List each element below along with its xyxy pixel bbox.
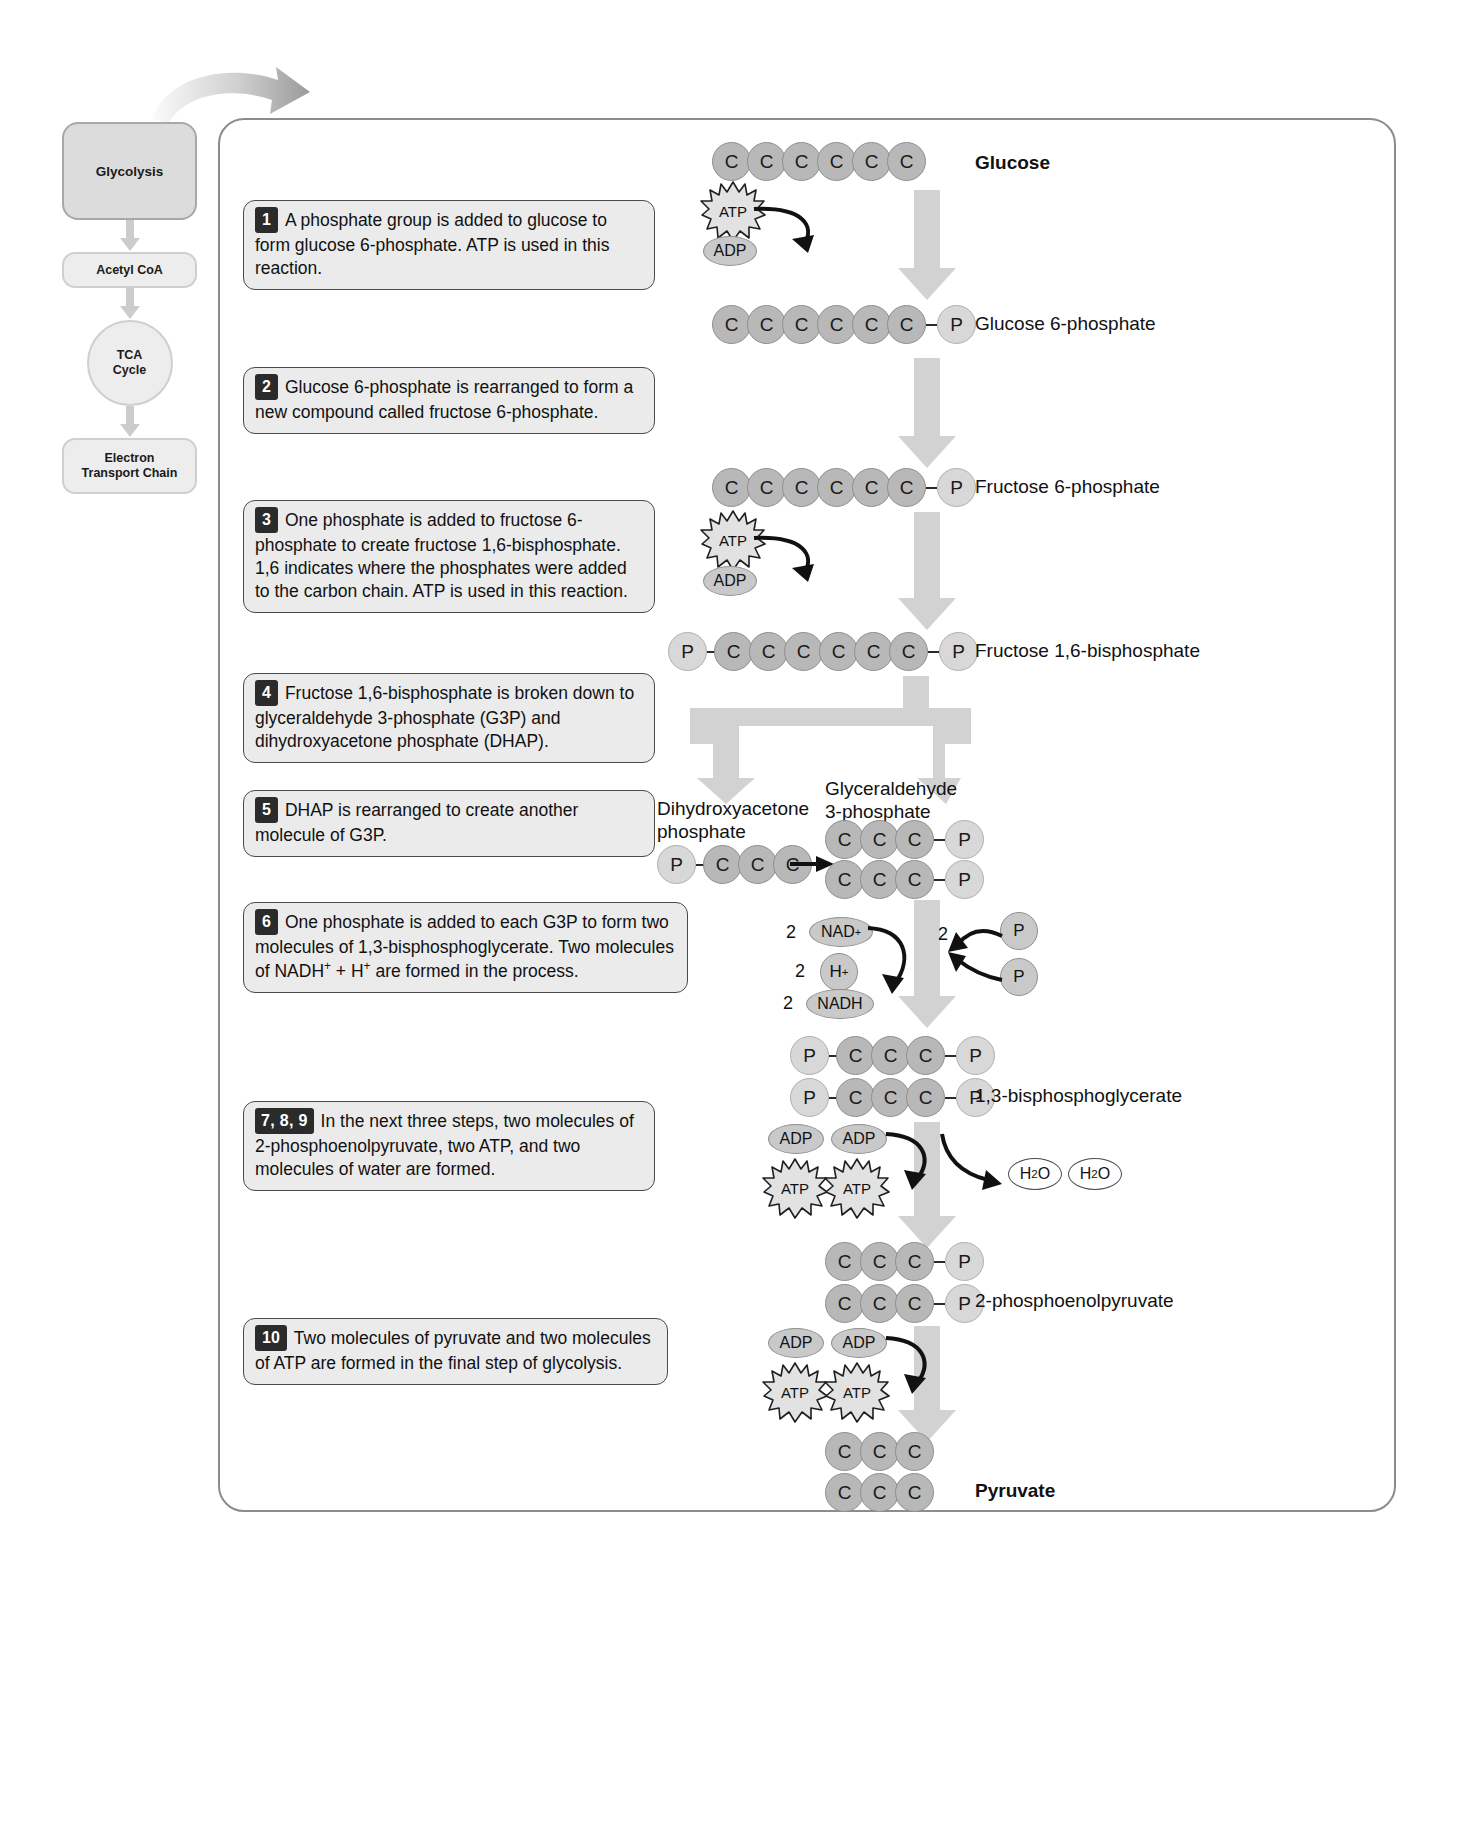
molecule-pyruvate: C C C — [825, 1432, 934, 1471]
svg-text:ATP: ATP — [843, 1180, 871, 1197]
molecule-pyruvate: C C C — [825, 1473, 934, 1512]
reaction-curve-arrow — [946, 950, 1008, 998]
carbon-circle: C — [860, 1284, 899, 1323]
water-ellipse: H2O — [1068, 1158, 1122, 1190]
molecule-label-glucose: Glucose — [975, 152, 1050, 174]
bond-line — [945, 1097, 956, 1099]
phosphate-circle: P — [956, 1036, 995, 1075]
sidebar-item-acetyl-coa[interactable]: Acetyl CoA — [62, 252, 197, 288]
carbon-circle: C — [825, 860, 864, 899]
reaction-curve-arrow — [884, 1330, 948, 1406]
molecule-label-pyruvate: Pyruvate — [975, 1480, 1055, 1502]
molecule-g3p: C C C P — [825, 860, 984, 899]
phosphate-circle: P — [945, 820, 984, 859]
phosphate-circle: P — [657, 845, 696, 884]
reaction-curve-arrow — [936, 1126, 1012, 1202]
carbon-circle: C — [749, 632, 788, 671]
step-number-badge: 6 — [255, 909, 278, 935]
molecule-1-3-bisphosphoglycerate: P C C C P — [790, 1036, 995, 1075]
coefficient-2: 2 — [795, 961, 805, 982]
adp-ellipse: ADP — [831, 1328, 887, 1358]
carbon-circle: C — [895, 1284, 934, 1323]
sidebar-item-electron-transport-chain[interactable]: Electron Transport Chain — [62, 438, 197, 494]
carbon-circle: C — [825, 820, 864, 859]
carbon-circle: C — [852, 142, 891, 181]
step-callout-10[interactable]: 10Two molecules of pyruvate and two mole… — [243, 1318, 668, 1385]
molecule-label-fructose-1-6-bisphosphate: Fructose 1,6-bisphosphate — [975, 640, 1200, 662]
molecule-fructose-1-6-bisphosphate: P C C C C C C P — [668, 632, 978, 671]
carbon-circle: C — [871, 1078, 910, 1117]
carbon-circle: C — [782, 305, 821, 344]
carbon-circle: C — [860, 1242, 899, 1281]
nadh-ellipse: NADH — [806, 989, 874, 1019]
carbon-circle: C — [825, 1284, 864, 1323]
step-callout-4[interactable]: 4Fructose 1,6-bisphosphate is broken dow… — [243, 673, 655, 763]
down-arrow-icon — [119, 220, 141, 252]
carbon-circle: C — [895, 1242, 934, 1281]
step-text: One phosphate is added to fructose 6-pho… — [255, 510, 628, 601]
reaction-curve-arrow — [750, 524, 860, 596]
carbon-circle: C — [825, 1473, 864, 1512]
down-arrow-icon — [119, 288, 141, 320]
bond-line — [926, 487, 937, 489]
carbon-circle: C — [895, 1432, 934, 1471]
step-text: Fructose 1,6-bisphosphate is broken down… — [255, 683, 634, 751]
sidebar-item-label: Glycolysis — [96, 164, 164, 179]
sidebar-item-label: Acetyl CoA — [96, 263, 163, 277]
carbon-circle: C — [782, 142, 821, 181]
step-number-badge: 3 — [255, 507, 278, 533]
carbon-circle: C — [712, 305, 751, 344]
carbon-circle: C — [895, 860, 934, 899]
carbon-circle: C — [852, 305, 891, 344]
step-text: A phosphate group is added to glucose to… — [255, 210, 609, 278]
step-number-badge: 7, 8, 9 — [255, 1108, 314, 1134]
adp-ellipse: ADP — [768, 1124, 824, 1154]
carbon-circle: C — [860, 1473, 899, 1512]
sidebar-item-glycolysis[interactable]: Glycolysis — [62, 122, 197, 220]
bond-line — [934, 1261, 945, 1263]
reaction-arrow — [898, 190, 956, 302]
step-callout-2[interactable]: 2Glucose 6-phosphate is rearranged to fo… — [243, 367, 655, 434]
step-callout-5[interactable]: 5DHAP is rearranged to create another mo… — [243, 790, 655, 857]
molecule-label-g3p: Glyceraldehyde 3-phosphate — [825, 778, 957, 824]
carbon-circle: C — [712, 142, 751, 181]
step-callout-789[interactable]: 7, 8, 9In the next three steps, two mole… — [243, 1101, 655, 1191]
carbon-circle: C — [747, 142, 786, 181]
reaction-curve-arrow — [750, 195, 860, 265]
molecule-dhap: P C C C — [657, 845, 812, 884]
step-text: Glucose 6-phosphate is rearranged to for… — [255, 377, 633, 422]
step-text: Two molecules of pyruvate and two molecu… — [255, 1328, 651, 1373]
step-number-badge: 1 — [255, 207, 278, 233]
molecule-label-dhap: Dihydroxyacetone phosphate — [657, 798, 809, 844]
svg-text:ATP: ATP — [781, 1180, 809, 1197]
carbon-circle: C — [889, 632, 928, 671]
atp-starburst-icon: ATP — [762, 1158, 828, 1220]
carbon-circle: C — [860, 1432, 899, 1471]
carbon-circle: C — [854, 632, 893, 671]
step-callout-1[interactable]: 1A phosphate group is added to glucose t… — [243, 200, 655, 290]
phosphate-circle: P — [945, 860, 984, 899]
bond-line — [945, 1055, 956, 1057]
adp-ellipse: ADP — [703, 566, 757, 596]
step-callout-6[interactable]: 6One phosphate is added to each G3P to f… — [243, 902, 688, 993]
h-plus-circle: H+ — [820, 953, 858, 991]
atp-starburst-icon: ATP — [824, 1362, 890, 1424]
phosphate-circle: P — [790, 1078, 829, 1117]
carbon-circle: C — [906, 1078, 945, 1117]
carbon-circle: C — [836, 1078, 875, 1117]
phosphate-circle: P — [945, 1242, 984, 1281]
carbon-circle: C — [887, 142, 926, 181]
adp-ellipse: ADP — [831, 1124, 887, 1154]
coefficient-2: 2 — [786, 922, 796, 943]
carbon-circle: C — [747, 468, 786, 507]
sidebar-item-label: Electron Transport Chain — [82, 451, 178, 481]
carbon-circle: C — [836, 1036, 875, 1075]
atp-starburst-icon: ATP — [762, 1362, 828, 1424]
carbon-circle: C — [895, 1473, 934, 1512]
step-number-badge: 4 — [255, 680, 278, 706]
molecule-label-fructose-6-phosphate: Fructose 6-phosphate — [975, 476, 1160, 498]
sidebar-item-tca-cycle[interactable]: TCA Cycle — [87, 320, 173, 406]
step-callout-3[interactable]: 3One phosphate is added to fructose 6-ph… — [243, 500, 655, 613]
adp-ellipse: ADP — [703, 236, 757, 266]
molecule-label-bpg: 1,3-bisphosphoglycerate — [975, 1085, 1182, 1107]
